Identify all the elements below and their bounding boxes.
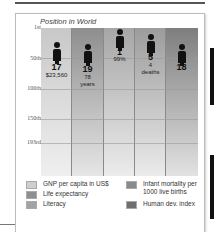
ytick-150th: 150th xyxy=(27,115,41,121)
detail-gnp: $23,560 xyxy=(41,72,72,79)
legend-swatch xyxy=(26,201,37,209)
ytick-193rd: 193rd xyxy=(27,139,41,145)
legend-swatch xyxy=(126,201,137,209)
plot-area: 17 $23,560 19 78 years 1 99% 5 4 deaths … xyxy=(41,28,198,176)
rank-life-expectancy: 19 xyxy=(72,64,103,74)
gridline-150th xyxy=(41,119,198,120)
side-bar-bottom xyxy=(210,155,214,219)
legend-swatch xyxy=(126,181,137,189)
legend-swatch xyxy=(26,181,37,189)
legend-item-infant-mortality: Infant mortality per 1000 live births xyxy=(126,180,202,196)
person-icon xyxy=(114,29,126,48)
chart-title: Position in World xyxy=(40,17,96,26)
gridline-100th xyxy=(41,89,198,90)
ytick-1st: 1st xyxy=(34,24,41,30)
person-icon xyxy=(176,44,188,63)
rank-hdi: 18 xyxy=(166,62,197,72)
rank-infant-mortality: 5 xyxy=(135,52,166,62)
legend-item-gnp: GNP per capita in US$ xyxy=(26,180,109,189)
legend-item-hdi: Human dev. index xyxy=(126,200,195,209)
chart-panel: Position in World 1st 50th 100th 150th 1… xyxy=(15,13,205,232)
detail-literacy: 99% xyxy=(104,56,135,63)
person-icon xyxy=(145,34,157,53)
legend-item-life-expectancy: Life expectancy xyxy=(26,190,88,199)
detail-life-expectancy-unit: years xyxy=(72,81,103,88)
detail-infant-mortality-unit: deaths xyxy=(135,69,166,76)
detail-infant-mortality: 4 xyxy=(135,62,166,69)
ytick-100th: 100th xyxy=(27,85,41,91)
ytick-50th: 50th xyxy=(30,55,41,61)
legend-swatch xyxy=(26,191,37,199)
legend-item-literacy: Literacy xyxy=(26,200,66,209)
person-icon xyxy=(82,44,94,63)
side-bar-top xyxy=(210,48,214,105)
person-icon xyxy=(51,42,63,61)
gridline-193rd xyxy=(41,143,198,144)
detail-life-expectancy: 78 xyxy=(72,74,103,81)
rank-gnp: 17 xyxy=(41,62,72,72)
top-rule xyxy=(15,2,205,4)
